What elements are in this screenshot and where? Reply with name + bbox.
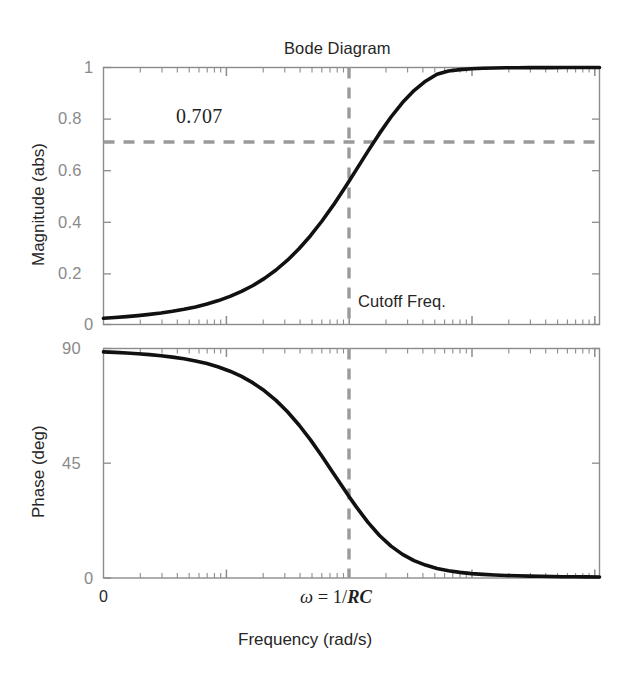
magnitude-ytick-0_2: 0.2 [58,265,82,282]
plot-canvas [0,0,629,688]
phase-curve [104,352,600,577]
phase-axes-frame [104,349,600,579]
xtick-label-zero: 0 [99,589,108,605]
phase-y-ticks [104,349,600,579]
phase-ytick-90: 90 [62,340,81,357]
magnitude-axis-label: Magnitude (abs) [30,143,47,266]
phase-plot-box [104,349,600,579]
bode-diagram-figure: Bode Diagram 1 0.8 0.6 0.4 0.2 0 Magnitu… [0,0,629,688]
frequency-axis-label: Frequency (rad/s) [238,631,372,648]
phase-axis-label: Phase (deg) [30,425,47,518]
phase-ytick-45: 45 [62,455,81,472]
magnitude-0707-annotation: 0.707 [176,106,223,126]
omega-symbol: ω [300,587,313,607]
phase-x-log-ticks [140,349,595,579]
magnitude-ytick-0: 0 [84,316,93,333]
equals-one-over: = 1/ [313,587,347,607]
xtick-label-cutoff: ω = 1/RC [300,588,372,607]
cutoff-freq-annotation: Cutoff Freq. [358,293,446,310]
rc-symbol: RC [347,587,372,607]
magnitude-ytick-1: 1 [84,59,93,76]
chart-title: Bode Diagram [284,40,391,57]
magnitude-ytick-0_8: 0.8 [58,110,82,127]
phase-ytick-0: 0 [84,570,93,587]
magnitude-ytick-0_4: 0.4 [58,214,82,231]
magnitude-ytick-0_6: 0.6 [58,162,82,179]
